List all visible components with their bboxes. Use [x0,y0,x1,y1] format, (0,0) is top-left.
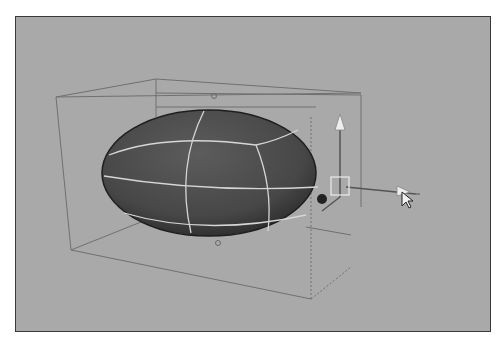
control-point-top[interactable] [212,94,217,99]
lattice-top-left-edge [56,79,156,97]
y-axis-arrow-icon[interactable] [335,114,345,130]
lattice-bottom-front-edge [71,250,311,299]
control-point-bottom[interactable] [216,241,221,246]
lattice-left-edge [56,97,71,250]
deformed-sphere[interactable] [102,110,318,236]
lattice-bottom-back-edge [306,227,351,235]
mouse-cursor-icon [402,192,413,208]
lattice-bottom-right-edge [311,267,351,299]
lattice-bottom-left-edge [71,222,141,250]
lattice-top-back-edge [156,79,361,93]
sphere-surface[interactable] [102,110,316,236]
3d-viewport[interactable] [15,16,491,332]
z-axis-handle-icon[interactable] [317,194,327,204]
